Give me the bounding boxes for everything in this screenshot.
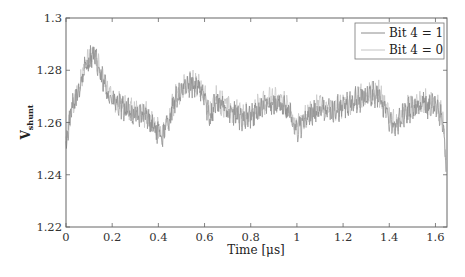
line-chart: 00.20.40.60.811.21.41.6 1.221.241.261.28… bbox=[0, 0, 465, 277]
legend-label-bit4-0: Bit 4 = 0 bbox=[389, 43, 443, 57]
x-axis-label: Time [μs] bbox=[227, 243, 284, 257]
y-tick-label: 1.3 bbox=[44, 11, 62, 25]
y-tick-label: 1.24 bbox=[36, 168, 62, 182]
x-tick-label: 0.6 bbox=[195, 230, 213, 244]
plot-series bbox=[66, 45, 446, 171]
y-tick-label: 1.28 bbox=[36, 63, 62, 77]
x-tick-label: 0.8 bbox=[242, 230, 260, 244]
y-axis-label: Vshunt bbox=[19, 104, 35, 140]
y-axis-label-sub: shunt bbox=[25, 104, 35, 130]
x-tick-label: 1.4 bbox=[380, 230, 398, 244]
svg-text:Vshunt: Vshunt bbox=[19, 104, 35, 140]
x-tick-label: 0.4 bbox=[149, 230, 167, 244]
legend: Bit 4 = 1 Bit 4 = 0 bbox=[355, 23, 444, 59]
x-tick-label: 1 bbox=[293, 230, 300, 244]
x-tick-label: 0 bbox=[62, 230, 69, 244]
series-bit4-1-line bbox=[66, 45, 446, 171]
x-tick-label: 0.2 bbox=[103, 230, 121, 244]
legend-label-bit4-1: Bit 4 = 1 bbox=[389, 26, 443, 40]
y-tick-label: 1.26 bbox=[36, 116, 62, 130]
x-tick-label: 1.6 bbox=[426, 230, 444, 244]
y-tick-label: 1.22 bbox=[36, 220, 62, 234]
x-tick-label: 1.2 bbox=[334, 230, 352, 244]
